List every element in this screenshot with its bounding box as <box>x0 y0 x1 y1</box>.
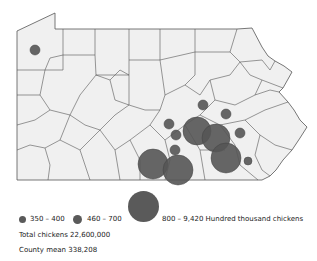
legend-large-bubble-icon <box>128 191 159 222</box>
legend: 350 – 400 460 – 700 800 – 9,420 Hundred … <box>0 185 317 230</box>
legend-label-small: 350 – 400 <box>30 215 65 223</box>
bubble-small <box>170 145 180 155</box>
bubble-large <box>163 155 193 185</box>
bubble-small <box>30 45 40 55</box>
legend-label-large: 800 – 9,420 Hundred thousand chickens <box>162 215 303 223</box>
legend-label-medium: 460 – 700 <box>87 215 122 223</box>
total-chickens-note: Total chickens 22,600,000 <box>19 231 110 239</box>
bubble-small <box>164 119 174 129</box>
legend-small-bubble-icon <box>19 216 26 223</box>
bubble-small <box>244 157 252 165</box>
legend-medium-bubble-icon <box>73 215 82 224</box>
bubble-small <box>235 128 245 138</box>
bubble-small <box>171 130 181 140</box>
bubble-small <box>198 100 208 110</box>
county-mean-note: County mean 338,208 <box>19 246 97 254</box>
pennsylvania-county-map <box>0 0 317 190</box>
bubble-large <box>211 143 241 173</box>
bubble-small <box>221 109 231 119</box>
